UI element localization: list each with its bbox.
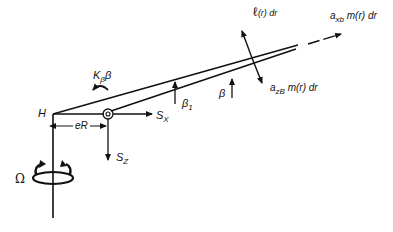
rotation-label: Ω: [15, 173, 25, 185]
spring-moment-arrow: [93, 86, 108, 90]
beta1-label: β1: [182, 98, 193, 109]
spring-moment-label: Kββ: [93, 70, 111, 81]
hinge-offset-label: eR: [73, 121, 90, 131]
hub-label: H: [38, 108, 46, 119]
inertia-z-label: azB m(r) dr: [270, 83, 318, 93]
blade: [111, 49, 296, 111]
shear-x-label: SX: [156, 110, 169, 121]
inertia-x-force-arrow: [308, 34, 341, 44]
lift-force-arrow: [242, 31, 252, 58]
lift-label: ℓ(r) dr: [253, 5, 277, 18]
beta-label: β: [219, 88, 225, 99]
hinge-spring-icon: [103, 109, 113, 119]
shear-z-label: SZ: [116, 152, 128, 163]
rotor-blade-diagram: H Kββ eR SX SZ β1 β Ω ℓ(r) dr azB m(r) d…: [0, 0, 393, 232]
diagram-lines: [0, 0, 393, 232]
inertia-x-label: axb m(r) dr: [330, 11, 377, 21]
